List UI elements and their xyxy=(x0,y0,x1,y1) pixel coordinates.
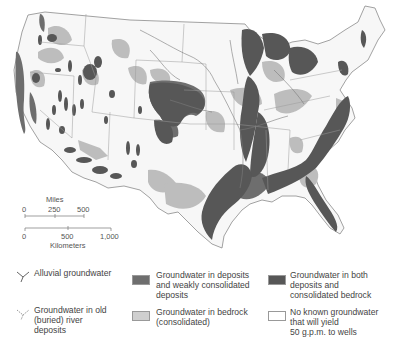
swatch-none xyxy=(268,311,286,321)
legend-item-deposits: Groundwater in deposits and weakly conso… xyxy=(130,270,265,304)
legend-item-alluvial: Alluvial groundwater xyxy=(0,268,125,282)
legend-label-both: Groundwater in both deposits and consoli… xyxy=(290,270,371,300)
alluvial-stream-icon xyxy=(16,271,30,283)
swatch-both xyxy=(268,275,286,285)
legend-label-deposits: Groundwater in deposits and weakly conso… xyxy=(156,270,250,300)
legend-label-buried: Groundwater in old (buried) river deposi… xyxy=(34,305,107,335)
legend-label-alluvial: Alluvial groundwater xyxy=(34,268,111,278)
legend-label-none: No known groundwater that will yield 50 … xyxy=(290,307,378,337)
buried-river-icon xyxy=(16,309,30,321)
legend-item-buried: Groundwater in old (buried) river deposi… xyxy=(0,305,125,339)
scale-bar: Miles 0 250 500 0 500 1,000 Kilometers xyxy=(0,195,130,255)
scale-km-tick-1000: 1,000 xyxy=(100,232,119,241)
legend-item-none: No known groundwater that will yield 50 … xyxy=(264,307,406,341)
scale-km-tick-0: 0 xyxy=(22,232,26,241)
legend-item-both: Groundwater in both deposits and consoli… xyxy=(264,270,406,304)
scale-km-title: Kilometers xyxy=(50,241,85,250)
legend-label-bedrock: Groundwater in bedrock (consolidated) xyxy=(156,307,248,327)
scale-km-tick-500: 500 xyxy=(61,232,74,241)
swatch-bedrock xyxy=(132,311,150,321)
swatch-deposits xyxy=(132,275,150,285)
legend-item-bedrock: Groundwater in bedrock (consolidated) xyxy=(130,307,265,331)
